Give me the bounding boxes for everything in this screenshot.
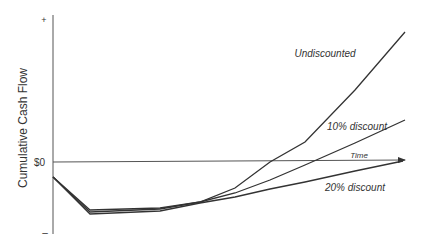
y-axis-label: Cumulative Cash Flow	[16, 68, 30, 188]
y-tick-minus: –	[42, 227, 48, 238]
chart-svg: + $0 – Cumulative Cash Flow Undiscounted…	[0, 0, 423, 245]
label-10-discount: 10% discount	[327, 121, 388, 132]
y-tick-plus: +	[41, 15, 46, 25]
cash-flow-chart: + $0 – Cumulative Cash Flow Undiscounted…	[0, 0, 423, 245]
x-axis-time	[53, 160, 405, 162]
y-tick-zero: $0	[34, 157, 46, 168]
label-undiscounted: Undiscounted	[294, 48, 356, 59]
label-20-discount: 20% discount	[324, 182, 386, 193]
label-time: Time	[350, 151, 368, 160]
